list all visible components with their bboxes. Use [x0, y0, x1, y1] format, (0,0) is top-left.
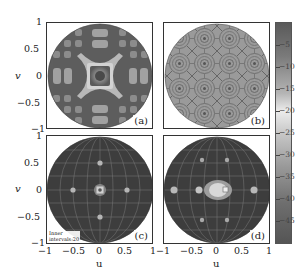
heatmap-a — [47, 23, 153, 129]
colorbar-tick: −35 — [279, 173, 295, 181]
x-tick: 0 — [213, 246, 219, 256]
x-tick: 0.5 — [117, 246, 132, 256]
colorbar-tick: −20 — [279, 107, 295, 115]
x-tick: 0 — [96, 246, 102, 256]
colorbar-tick: −40 — [279, 195, 295, 203]
x-tick: −0.5 — [62, 246, 85, 256]
y-tick: 0.5 — [24, 158, 39, 168]
y-axis-label: v — [15, 70, 21, 81]
y-tick: 0.5 — [24, 44, 39, 54]
y-axis-label: v — [15, 183, 21, 194]
x-tick: −1 — [156, 246, 170, 256]
y-tick: 0 — [36, 71, 42, 81]
panel-d: (d) — [163, 135, 270, 244]
panel-a: (a) — [46, 22, 153, 129]
colorbar: −5 −10 −15 −20 −25 −30 −35 −40 −45 — [275, 22, 292, 244]
panel-c: Inner intervals:20 (c) — [46, 135, 153, 244]
colorbar-tick: −30 — [279, 151, 295, 159]
x-axis-label: u — [96, 258, 102, 269]
x-tick: −1 — [38, 246, 52, 256]
y-tick: −0.5 — [17, 98, 40, 108]
colorbar-tick: −5 — [279, 41, 290, 49]
colorbar-tick: −15 — [279, 85, 295, 93]
y-tick: −0.5 — [17, 212, 40, 222]
panel-b: (b) — [163, 22, 270, 129]
x-tick: 0.5 — [234, 246, 249, 256]
y-tick: 1 — [36, 17, 42, 27]
annotation-box: Inner intervals:20 — [48, 231, 80, 242]
heatmap-c — [47, 136, 153, 244]
panel-label-a: (a) — [133, 115, 149, 126]
y-tick: 1 — [36, 131, 42, 141]
heatmap-d — [164, 136, 270, 244]
panel-label-b: (b) — [250, 115, 266, 126]
y-tick: 0 — [36, 185, 42, 195]
x-tick: −0.5 — [180, 246, 203, 256]
heatmap-b — [164, 23, 270, 129]
annotation-line-2: intervals:20 — [49, 237, 79, 243]
colorbar-tick: −45 — [279, 217, 295, 225]
colorbar-tick: −25 — [279, 129, 295, 137]
x-axis-label: u — [213, 258, 219, 269]
colorbar-tick: −10 — [279, 63, 295, 71]
x-tick: 1 — [266, 246, 272, 256]
panel-label-d: (d) — [250, 230, 266, 241]
panel-label-c: (c) — [134, 230, 149, 241]
